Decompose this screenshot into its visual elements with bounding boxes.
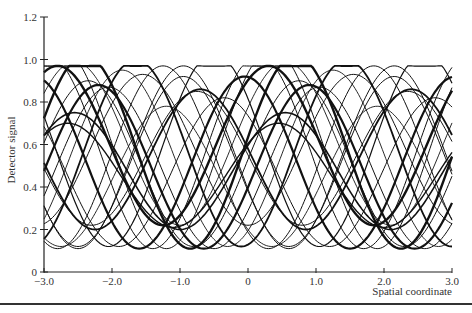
y-tick-label: 1.2 [23, 11, 37, 23]
x-tick-label: −2.0 [102, 275, 122, 287]
y-tick-label: 0.4 [23, 181, 37, 193]
bottom-rule [0, 303, 472, 305]
x-axis-title: Spatial coordinate [372, 285, 452, 297]
y-tick-label: 0.8 [23, 96, 37, 108]
x-tick-label: −1.0 [170, 275, 190, 287]
y-axis-title: Detector signal [5, 117, 17, 184]
fringe-curve [44, 81, 452, 247]
y-tick-label: 0.2 [23, 224, 37, 236]
y-tick-label: 1.0 [23, 54, 37, 66]
y-tick-label: 0.6 [23, 139, 37, 151]
x-tick-label: 0 [245, 275, 251, 287]
x-tick-label: 1.0 [309, 275, 323, 287]
fringe-chart: 00.20.40.60.81.01.2 −3.0−2.0−1.001.02.03… [0, 0, 472, 313]
fringe-curves [44, 66, 452, 249]
x-tick-label: −3.0 [34, 275, 54, 287]
